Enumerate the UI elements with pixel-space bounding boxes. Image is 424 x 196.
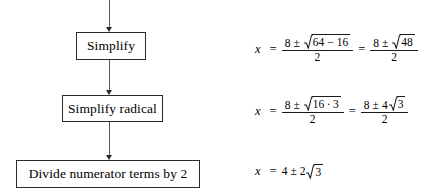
equation-1-variable: x [255,43,261,56]
flow-step-divide-numerator[interactable]: Divide numerator terms by 2 [16,160,200,188]
equation-2-left-fraction: 8 ± 16 · 3 2 [282,96,344,126]
flow-step-simplify-radical-label: Simplify radical [68,102,157,116]
equation-2-left-denominator: 2 [307,113,319,126]
flow-step-simplify[interactable]: Simplify [76,32,146,60]
equation-3-coefficient: 2 [300,166,306,178]
equation-1-left-radicand-b: 16 [337,36,349,49]
equation-2-right-plus-minus-sign: ± [373,100,379,112]
equation-1-left-radicand: 64 − 16 [312,34,351,49]
equation-2: x = 8 ± 16 · 3 2 = 8 ± 4 [255,96,408,126]
equation-2-right-numerator: 8 ± 4 3 [361,96,409,112]
equation-3-radicand: 3 [314,164,323,179]
equation-1-equals-sign-1: = [270,43,277,56]
equation-1-right-lead-term: 8 [373,38,379,50]
equation-3: x = 4 ± 2 3 [255,164,323,179]
equation-2-left-radical: 16 · 3 [304,96,341,111]
equation-2-right-denominator: 2 [379,113,391,126]
equation-2-right-radicand: 3 [397,96,406,111]
equation-1-left-numerator: 8 ± 64 − 16 [282,34,354,50]
connector-line-radical-to-divide [109,122,110,156]
equation-2-left-radicand: 16 · 3 [312,96,341,111]
equation-1-left-lead-term: 8 [285,38,291,50]
equation-3-equals-sign: = [270,165,277,178]
equation-2-left-numerator: 8 ± 16 · 3 [282,96,344,112]
equation-1-right-fraction: 8 ± 48 2 [370,34,418,64]
equation-3-radical: 3 [306,164,323,179]
equation-2-right-coefficient: 4 [382,100,388,112]
equation-1-right-radicand: 48 [400,34,415,49]
equation-1-equals-sign-2: = [358,43,365,56]
equation-1-left-radicand-operator: − [327,36,334,49]
equation-1-left-denominator: 2 [312,51,324,64]
equation-1-left-radicand-a: 64 [313,36,325,49]
equation-2-left-radicand-b: 3 [333,98,339,111]
equation-2-right-fraction: 8 ± 4 3 2 [361,96,409,126]
equation-2-variable: x [255,105,261,118]
equation-2-left-plus-minus-sign: ± [293,100,299,112]
equation-2-equals-sign-2: = [349,105,356,118]
equation-1-left-radical: 64 − 16 [304,34,351,49]
flow-step-divide-numerator-label: Divide numerator terms by 2 [29,167,188,181]
connector-line-into-simplify [109,0,110,28]
equation-3-lead-term: 4 [282,166,288,178]
equation-2-left-radicand-a: 16 [313,98,325,111]
equation-1-right-numerator: 8 ± 48 [370,34,418,50]
equation-1-right-plus-minus-sign: ± [382,38,388,50]
equation-1-right-denominator: 2 [388,51,400,64]
equation-2-left-radicand-operator: · [327,98,331,111]
equation-1-right-radical: 48 [392,34,415,49]
connector-line-simplify-to-radical [109,60,110,91]
flow-step-simplify-radical[interactable]: Simplify radical [62,95,163,122]
equation-2-left-lead-term: 8 [285,100,291,112]
equation-3-variable: x [255,165,261,178]
equation-3-plus-minus-sign: ± [290,166,296,178]
equation-2-equals-sign-1: = [270,105,277,118]
equation-2-right-lead-term: 8 [364,100,370,112]
equation-1-left-plus-minus-sign: ± [293,38,299,50]
equation-1-left-fraction: 8 ± 64 − 16 2 [282,34,354,64]
equation-1: x = 8 ± 64 − 16 2 = 8 ± [255,34,418,64]
flow-step-simplify-label: Simplify [87,39,135,53]
equation-2-right-radical: 3 [389,96,406,111]
